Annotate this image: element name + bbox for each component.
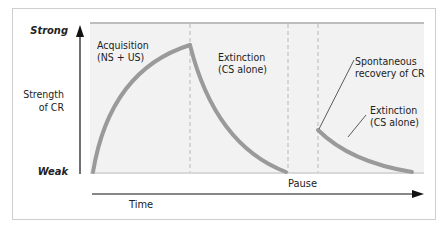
ylabel-line1: Strength <box>14 88 64 100</box>
extinction1-label-line1: Extinction <box>218 51 265 63</box>
ylabel-line2: of CR <box>14 101 64 113</box>
y-axis-arrowhead-icon <box>76 25 84 37</box>
time-label: Time <box>129 199 153 211</box>
recovery-label-line2: recovery of CR <box>355 67 425 79</box>
extinction2-label-line1: Extinction <box>370 104 417 116</box>
weak-label: Weak <box>20 166 68 178</box>
acquisition-label-line1: Acquisition <box>97 39 149 51</box>
extinction1-label-line2: (CS alone) <box>218 63 267 75</box>
extinction2-label-line2: (CS alone) <box>370 116 419 128</box>
pause-label: Pause <box>288 178 317 190</box>
acquisition-label-line2: (NS + US) <box>97 51 144 63</box>
recovery-label-line1: Spontaneous <box>355 55 417 67</box>
x-axis-arrowhead-icon <box>412 190 424 198</box>
strong-label: Strong <box>20 25 68 37</box>
